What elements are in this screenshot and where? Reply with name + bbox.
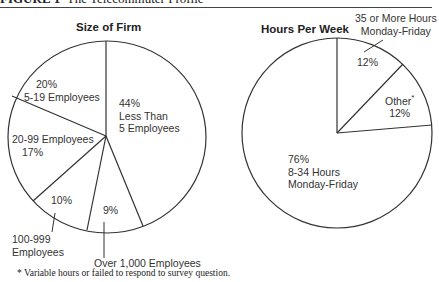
label-text: 20-99 Employees [12, 133, 94, 146]
footnote-mark: * [411, 93, 414, 102]
chart-title-size-of-firm: Size of Firm [76, 21, 141, 33]
label-text: 5 Employees [119, 122, 180, 135]
chart-title-hours-per-week: Hours Per Week [261, 23, 349, 35]
label-text: 100-999 [12, 233, 64, 246]
label-text: 8-34 Hours [288, 166, 358, 179]
label-12-pct-35: 12% [357, 56, 378, 69]
label-text: Employees [12, 246, 64, 259]
label-20-99: 20-99 Employees 17% [12, 133, 94, 158]
footnote: * Variable hours or failed to respond to… [17, 268, 230, 278]
label-100-999: 100-999 Employees [12, 233, 64, 258]
label-9-pct: 9% [103, 204, 118, 217]
label-5-19: 20% 5-19 Employees [36, 78, 100, 103]
label-10-pct: 10% [51, 194, 72, 207]
label-pct: 17% [22, 146, 94, 159]
label-text: Less Than [119, 110, 180, 123]
label-text: Monday-Friday [355, 25, 437, 38]
label-8-34: 76% 8-34 Hours Monday-Friday [288, 153, 358, 191]
label-pct: 20% [36, 78, 100, 91]
label-text: 5-19 Employees [24, 91, 100, 104]
label-text: Monday-Friday [288, 178, 358, 191]
label-other: Other* 12% [385, 92, 414, 120]
label-35-or-more: 35 or More Hours Monday-Friday [355, 12, 437, 37]
label-pct: 12% [385, 107, 414, 120]
pie-hours-per-week [242, 38, 432, 228]
label-text: Other [385, 95, 411, 107]
label-pct: 76% [288, 153, 358, 166]
label-less-than-5: 44% Less Than 5 Employees [119, 97, 180, 135]
label-text: 35 or More Hours [355, 12, 437, 25]
label-pct: 44% [119, 97, 180, 110]
